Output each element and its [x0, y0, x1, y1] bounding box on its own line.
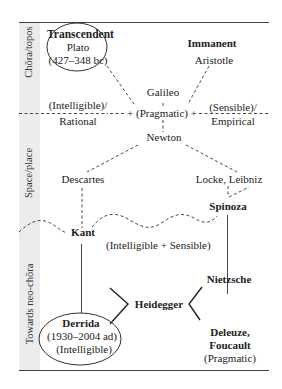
node-sensible-right: (Sensible)/	[205, 101, 261, 113]
node-plato-dates: (427–348 bc)	[44, 54, 112, 66]
node-derrida: Derrida	[56, 317, 106, 329]
node-nietzsche: Nietzsche	[204, 273, 254, 285]
section-label-space: Space/place	[23, 140, 35, 206]
node-newton: Newton	[139, 131, 189, 143]
node-aristotle: Aristotle	[184, 54, 244, 66]
diagram-frame: Chōra/topos Space/place Towards neo-chōr…	[0, 0, 282, 389]
section-label-neo-chora: Towards neo-chōra	[24, 254, 36, 354]
node-descartes: Descartes	[55, 173, 111, 185]
node-plato: Plato	[47, 41, 109, 53]
node-foucault: Foucault	[205, 339, 255, 351]
node-galileo: Galileo	[138, 86, 188, 98]
node-spinoza: Spinoza	[205, 200, 251, 212]
node-deleuze: Deleuze,	[205, 326, 255, 338]
node-kant: Kant	[68, 226, 98, 238]
node-immanent-title: Immanent	[182, 37, 242, 49]
node-empirical: Empirical	[205, 115, 261, 127]
node-intelligible-sensible: (Intelligible + Sensible)	[106, 239, 208, 251]
node-derrida-note: (Intelligible)	[52, 343, 116, 355]
node-locke-leibniz: Locke, Leibniz	[190, 173, 268, 185]
node-pragmatic-center: + (Pragmatic) +	[124, 107, 200, 119]
node-rational: Rational	[46, 115, 110, 127]
node-heidegger: Heidegger	[131, 298, 187, 310]
node-transcendent-title: Transcendent	[47, 28, 109, 40]
section-label-chora: Chōra/topos	[23, 19, 35, 85]
node-intelligible-left: (Intelligible)/	[46, 99, 110, 111]
node-pragmatic-bottom: (Pragmatic)	[202, 352, 258, 364]
node-derrida-dates: (1930–2004 ad)	[44, 330, 120, 342]
